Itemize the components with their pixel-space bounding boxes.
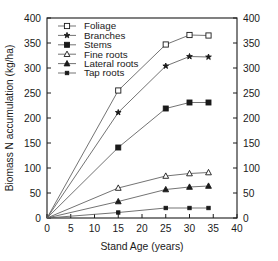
- y-tick-label-left: 400: [24, 13, 41, 24]
- x-tick-label: 25: [160, 223, 172, 234]
- y-tick-label-right: 300: [243, 63, 260, 74]
- x-tick-label: 5: [68, 223, 74, 234]
- data-point-stems: [187, 100, 192, 105]
- legend-marker: [64, 23, 69, 28]
- data-point-tap-roots: [164, 206, 167, 209]
- y-tick-label-left: 300: [24, 63, 41, 74]
- data-point-tap-roots: [188, 206, 191, 209]
- y-tick-label-right: 200: [243, 113, 260, 124]
- data-point-stems: [206, 100, 211, 105]
- y-tick-label-right: 150: [243, 138, 260, 149]
- y-tick-label-left: 200: [24, 113, 41, 124]
- y-tick-label-left: 100: [24, 163, 41, 174]
- x-axis-label: Stand Age (years): [100, 241, 183, 252]
- biomass-n-accumulation-chart: 050100150200250300350400 050100150200250…: [0, 0, 278, 261]
- y-tick-label-left: 0: [35, 213, 41, 224]
- data-point-foliage: [187, 32, 192, 37]
- y-tick-label-left: 50: [30, 188, 42, 199]
- x-tick-label: 10: [89, 223, 101, 234]
- data-point-tap-roots: [117, 211, 120, 214]
- y-tick-label-right: 350: [243, 38, 260, 49]
- x-tick-label: 30: [184, 223, 196, 234]
- data-point-foliage: [116, 88, 121, 93]
- x-tick-label: 15: [113, 223, 125, 234]
- y-tick-label-left: 250: [24, 88, 41, 99]
- legend-marker: [65, 42, 70, 47]
- x-tick-label: 40: [231, 223, 243, 234]
- data-point-stems: [163, 106, 168, 111]
- y-tick-label-right: 50: [243, 188, 255, 199]
- y-tick-label-right: 250: [243, 88, 260, 99]
- x-tick-label: 35: [208, 223, 220, 234]
- x-tick-label: 0: [44, 223, 50, 234]
- y-tick-label-right: 0: [243, 213, 249, 224]
- y-tick-label-left: 350: [24, 38, 41, 49]
- y-axis-label: Biomass N accumulation (kg/ha): [4, 45, 15, 192]
- data-point-tap-roots: [207, 206, 210, 209]
- y-tick-label-left: 150: [24, 138, 41, 149]
- data-point-foliage: [163, 42, 168, 47]
- data-point-foliage: [206, 33, 211, 38]
- legend-marker: [65, 71, 68, 74]
- y-tick-label-right: 400: [243, 13, 260, 24]
- legend-label: Tap roots: [84, 67, 124, 78]
- x-tick-label: 20: [136, 223, 148, 234]
- data-point-stems: [116, 145, 121, 150]
- y-tick-label-right: 100: [243, 163, 260, 174]
